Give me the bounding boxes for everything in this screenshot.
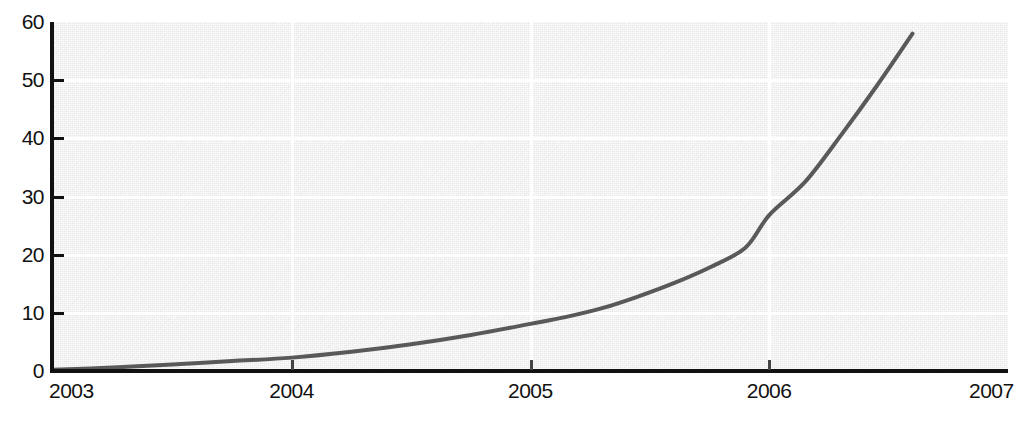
x-tick-label-2005: 2005 [508, 380, 553, 401]
y-tick-50 [54, 79, 64, 82]
y-tick-label-10: 10 [2, 302, 44, 323]
x-tick-2004 [291, 360, 294, 370]
x-tick-label-2006: 2006 [747, 380, 792, 401]
x-tick-label-2004: 2004 [269, 380, 314, 401]
y-tick-label-20: 20 [2, 244, 44, 265]
series-line-1 [53, 34, 913, 370]
x-tick-label-2003: 2003 [49, 380, 94, 401]
x-tick-2005 [530, 360, 533, 370]
y-tick-40 [54, 137, 64, 140]
y-tick-10 [54, 312, 64, 315]
y-tick-label-60: 60 [2, 11, 44, 32]
y-tick-label-30: 30 [2, 186, 44, 207]
y-tick-20 [54, 254, 64, 257]
plot-area [53, 22, 1008, 371]
line-chart: 0102030405060 20032004200520062007 [0, 0, 1028, 423]
y-tick-label-0: 0 [2, 360, 44, 381]
x-tick-label-2007: 2007 [969, 380, 1014, 401]
y-tick-label-40: 40 [2, 127, 44, 148]
series-layer [53, 22, 1008, 371]
y-tick-label-50: 50 [2, 69, 44, 90]
x-tick-2006 [768, 360, 771, 370]
y-tick-30 [54, 196, 64, 199]
